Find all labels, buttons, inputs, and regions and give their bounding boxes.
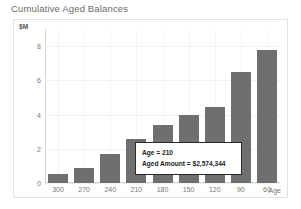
y-axis-tick-label: 2 bbox=[37, 145, 41, 152]
y-axis-tick-label: 4 bbox=[37, 111, 41, 118]
x-axis-tick-label: 180 bbox=[157, 186, 169, 193]
x-axis-tick-label: 90 bbox=[237, 186, 245, 193]
bar-270[interactable] bbox=[74, 168, 94, 183]
tooltip-amount-line: Aged Amount = $2,574,344 bbox=[142, 158, 236, 169]
gridline-horizontal bbox=[45, 183, 280, 184]
x-axis-tick-label: 300 bbox=[52, 186, 64, 193]
x-axis-tick-label: 270 bbox=[78, 186, 90, 193]
x-axis-tick-label: 240 bbox=[104, 186, 116, 193]
y-axis-tick-label: 0 bbox=[37, 180, 41, 187]
bar-300[interactable] bbox=[48, 174, 68, 183]
bar-60[interactable] bbox=[257, 50, 277, 183]
x-axis-tick-label: 120 bbox=[209, 186, 221, 193]
y-axis-unit-label: $M bbox=[19, 23, 28, 30]
y-axis-tick-label: 8 bbox=[37, 43, 41, 50]
x-axis-tick-label: 210 bbox=[131, 186, 143, 193]
x-axis-title: Age bbox=[269, 187, 281, 194]
tooltip-age-line: Age = 210 bbox=[142, 147, 236, 158]
chart-screenshot: Cumulative Aged Balances $M 02468 300270… bbox=[0, 0, 301, 209]
chart-title: Cumulative Aged Balances bbox=[11, 3, 128, 14]
bar-240[interactable] bbox=[100, 154, 120, 183]
y-axis-tick-label: 6 bbox=[37, 77, 41, 84]
data-point-tooltip: Age = 210 Aged Amount = $2,574,344 bbox=[135, 142, 242, 175]
x-axis-tick-label: 150 bbox=[183, 186, 195, 193]
